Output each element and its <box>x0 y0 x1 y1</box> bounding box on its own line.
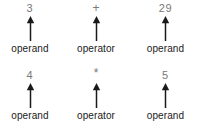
token-cell-operator-plus: + operator <box>60 2 132 60</box>
token-cell-operand-5: 5 operand <box>132 69 199 127</box>
token-label: operand <box>147 110 184 122</box>
token-label: operand <box>11 110 48 122</box>
up-arrow-icon <box>25 16 36 41</box>
token-label: operator <box>77 110 115 122</box>
token-cell-operand-4: 4 operand <box>0 69 60 127</box>
expression-row-1: 3 operand + operator 29 operand <box>0 2 199 60</box>
token-value: 4 <box>27 69 34 82</box>
token-value: + <box>92 2 99 15</box>
token-cell-operand-3: 3 operand <box>0 2 60 60</box>
token-cell-operator-star: * operator <box>60 69 132 127</box>
token-label: operand <box>11 43 48 55</box>
up-arrow-icon <box>160 83 171 108</box>
token-value: * <box>94 69 99 82</box>
token-cell-operand-29: 29 operand <box>132 2 199 60</box>
token-value: 3 <box>27 2 34 15</box>
token-annotation-diagram: 3 operand + operator 29 operand <box>0 0 199 134</box>
up-arrow-icon <box>91 16 102 41</box>
up-arrow-icon <box>91 83 102 108</box>
token-value: 29 <box>159 2 173 15</box>
token-value: 5 <box>162 69 169 82</box>
up-arrow-icon <box>25 83 36 108</box>
token-label: operand <box>147 43 184 55</box>
expression-row-2: 4 operand * operator 5 operand <box>0 69 199 127</box>
up-arrow-icon <box>160 16 171 41</box>
token-label: operator <box>77 43 115 55</box>
